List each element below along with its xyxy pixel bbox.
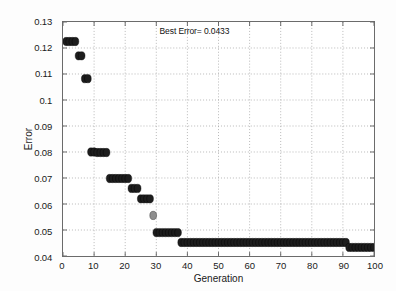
x-tick-label: 90 (338, 260, 349, 271)
y-tick-label: 0.13 (34, 16, 52, 27)
x-axis-label: Generation (62, 273, 375, 284)
chart-root: Error 0.040.050.060.070.080.090.10.110.1… (0, 0, 396, 291)
y-tick-label: 0.07 (34, 173, 52, 184)
x-tick-label: 30 (151, 260, 162, 271)
x-axis-tick-labels: 0102030405060708090100 (62, 260, 375, 274)
y-tick-label: 0.08 (34, 147, 52, 158)
x-tick-label: 60 (245, 260, 256, 271)
x-tick-label: 20 (119, 260, 130, 271)
y-tick-label: 0.12 (34, 42, 52, 53)
best-error-annotation: Best Error= 0.0433 (160, 26, 230, 36)
x-tick-label: 50 (213, 260, 224, 271)
x-tick-label: 0 (59, 260, 64, 271)
x-tick-label: 80 (307, 260, 318, 271)
y-axis-tick-labels: 0.040.050.060.070.080.090.10.110.120.13 (0, 21, 58, 257)
x-tick-label: 40 (182, 260, 193, 271)
y-tick-label: 0.09 (34, 120, 52, 131)
y-tick-label: 0.06 (34, 199, 52, 210)
y-tick-label: 0.04 (34, 252, 52, 263)
x-tick-label: 100 (367, 260, 383, 271)
plot-area: Best Error= 0.0433 (62, 21, 375, 257)
y-tick-label: 0.1 (39, 94, 52, 105)
y-tick-label: 0.05 (34, 225, 52, 236)
annotation-layer: Best Error= 0.0433 (63, 22, 374, 256)
y-tick-label: 0.11 (35, 68, 52, 79)
x-tick-label: 10 (88, 260, 99, 271)
x-tick-label: 70 (276, 260, 287, 271)
